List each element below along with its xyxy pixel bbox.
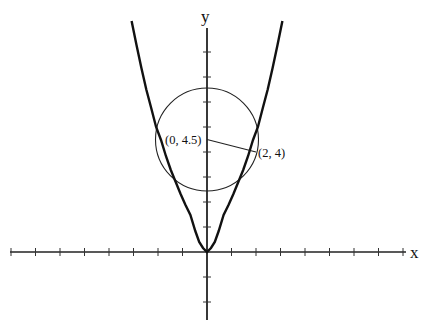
x-axis-label: x	[410, 243, 419, 262]
diagram-canvas: y x (0, 4.5) (2, 4)	[0, 0, 430, 329]
point-label-tangent: (2, 4)	[258, 146, 285, 160]
point-label-center: (0, 4.5)	[165, 133, 201, 147]
y-axis-label: y	[201, 7, 210, 26]
